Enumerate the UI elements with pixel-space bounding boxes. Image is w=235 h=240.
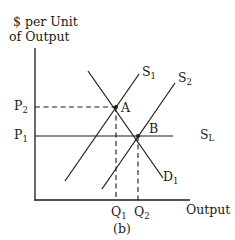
figure-caption: (b): [113, 221, 131, 236]
curve-label-s1: S1: [142, 64, 156, 81]
point-a-marker: [114, 105, 118, 109]
q1-sub: 1: [121, 211, 126, 221]
quantity-label-q1: Q1: [111, 204, 127, 221]
d1-base: D: [163, 169, 173, 184]
q2-base: Q: [134, 204, 144, 219]
quantity-label-q2: Q2: [134, 204, 150, 221]
s2-sub: 2: [187, 77, 192, 87]
price-label-p1: P1: [14, 127, 28, 144]
q2-sub: 2: [144, 211, 149, 221]
s1-sub: 1: [151, 71, 156, 81]
q1-base: Q: [111, 204, 121, 219]
s2-base: S: [178, 70, 187, 85]
point-b-marker: [136, 134, 140, 138]
supply-demand-diagram: $ per Unit of Output A B P2 P1 Q1 Q2 S1 …: [0, 0, 235, 240]
d1-sub: 1: [173, 176, 178, 186]
curve-label-d1: D1: [163, 169, 178, 186]
s1-base: S: [142, 64, 151, 79]
sl-sub: L: [209, 133, 215, 143]
point-a-label: A: [120, 100, 131, 115]
x-axis-title: Output: [186, 202, 230, 217]
curve-label-sl: SL: [200, 127, 215, 143]
p1-sub: 1: [22, 134, 27, 144]
p1-base: P: [14, 127, 22, 142]
curve-label-s2: S2: [178, 70, 192, 87]
y-axis-title-line2: of Output: [9, 29, 70, 44]
sl-base: S: [200, 127, 209, 142]
point-b-label: B: [149, 121, 158, 136]
p2-base: P: [14, 98, 22, 113]
y-axis-title-line1: $ per Unit: [13, 14, 78, 29]
price-label-p2: P2: [14, 98, 28, 115]
p2-sub: 2: [22, 105, 27, 115]
